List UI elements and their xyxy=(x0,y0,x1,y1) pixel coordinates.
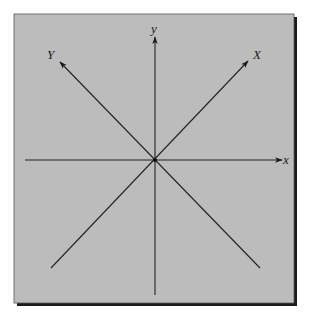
origin-point xyxy=(153,158,157,162)
x-axis-label: x xyxy=(282,152,289,167)
y-axis-label: y xyxy=(149,21,157,36)
diagram-canvas: x y X Y xyxy=(0,0,312,323)
rotated-axes-diagram: x y X Y xyxy=(0,0,312,323)
X-axis-label: X xyxy=(252,47,262,62)
